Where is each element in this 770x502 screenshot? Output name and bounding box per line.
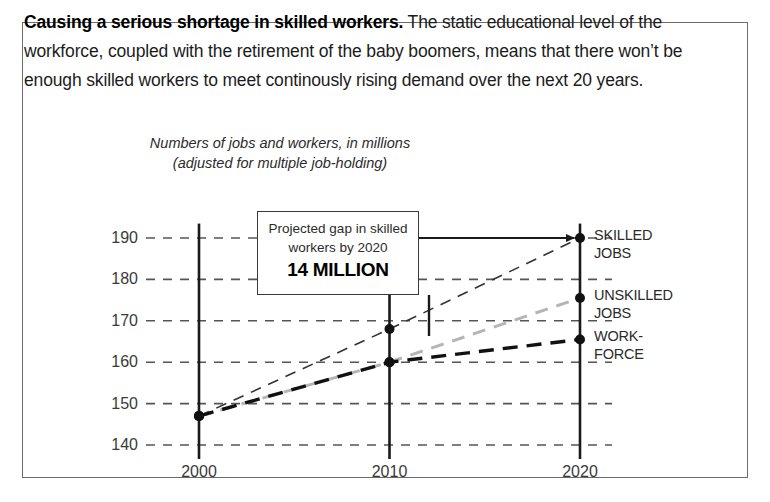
- series-end-label: SKILLEDJOBS: [594, 227, 652, 262]
- figure-root: Causing a serious shortage in skilled wo…: [0, 0, 770, 502]
- callout-line-1: Projected gap in skilled: [258, 219, 418, 238]
- gap-callout-box: Projected gap in skilled workers by 2020…: [257, 211, 419, 295]
- y-axis-tick-label: 150: [92, 395, 138, 413]
- headline-paragraph: Causing a serious shortage in skilled wo…: [24, 8, 704, 95]
- series-end-label: UNSKILLEDJOBS: [594, 287, 673, 322]
- x-axis-tick-label: 2010: [350, 463, 430, 481]
- chart-title: Numbers of jobs and workers, in millions: [0, 133, 560, 153]
- series-label-line-1: WORK-: [594, 328, 644, 346]
- chart-subtitle: (adjusted for multiple job-holding): [0, 153, 560, 173]
- chart-title-block: Numbers of jobs and workers, in millions…: [0, 133, 560, 173]
- series-label-line-2: JOBS: [594, 305, 673, 323]
- series-label-line-2: JOBS: [594, 245, 652, 263]
- x-axis-tick-label: 2020: [540, 463, 620, 481]
- y-axis-tick-label: 140: [92, 436, 138, 454]
- series-end-label: WORK-FORCE: [594, 328, 644, 363]
- y-axis-tick-label: 170: [92, 312, 138, 330]
- series-label-line-2: FORCE: [594, 346, 644, 364]
- y-axis-tick-label: 190: [92, 229, 138, 247]
- y-axis-tick-label: 180: [92, 270, 138, 288]
- callout-line-2: workers by 2020: [258, 238, 418, 257]
- series-label-line-1: UNSKILLED: [594, 287, 673, 305]
- series-label-line-1: SKILLED: [594, 227, 652, 245]
- y-axis-tick-label: 160: [92, 353, 138, 371]
- headline-lead: Causing a serious shortage in skilled wo…: [24, 12, 403, 32]
- callout-value: 14 MILLION: [258, 257, 418, 282]
- x-axis-tick-label: 2000: [159, 463, 239, 481]
